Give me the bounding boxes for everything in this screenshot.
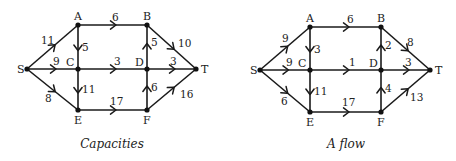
- edge-s-e: [27, 69, 78, 110]
- node-label: S: [250, 64, 258, 77]
- edge-label: 6: [151, 81, 158, 93]
- edge-label: 17: [342, 96, 355, 108]
- node-s: [24, 66, 29, 71]
- edge-label: 8: [45, 92, 52, 104]
- flow-graph: 9966311128341317SABCDTEFA flow: [250, 12, 443, 151]
- node-label: E: [74, 114, 82, 127]
- edge-label: 11: [41, 34, 54, 46]
- node-label: E: [306, 116, 314, 129]
- node-label: C: [66, 56, 74, 69]
- node-s: [257, 67, 262, 72]
- node-c: [307, 67, 312, 72]
- node-label: B: [143, 10, 151, 23]
- node-t: [193, 66, 198, 71]
- graph-caption: Capacities: [80, 137, 144, 151]
- edge-label: 3: [114, 55, 121, 67]
- edge-label: 6: [347, 13, 354, 25]
- node-a: [75, 22, 80, 27]
- node-t: [427, 67, 432, 72]
- edge-label: 11: [314, 85, 327, 97]
- capacities-graph: 119865311510361617SABCDTEFCapacities: [17, 10, 209, 151]
- edge-label: 6: [112, 11, 119, 23]
- node-label: C: [298, 57, 306, 70]
- edge-label: 9: [282, 32, 289, 44]
- node-d: [144, 66, 149, 71]
- node-c: [75, 66, 80, 71]
- edge-label: 4: [385, 82, 392, 94]
- node-b: [144, 22, 149, 27]
- node-a: [307, 24, 312, 29]
- node-label: D: [369, 57, 378, 70]
- edge-label: 6: [281, 95, 288, 107]
- edge-label: 10: [178, 37, 191, 49]
- edge-label: 13: [410, 91, 423, 103]
- node-label: B: [377, 12, 385, 25]
- edge-label: 3: [314, 43, 321, 55]
- node-label: A: [305, 12, 315, 25]
- node-label: T: [435, 64, 443, 77]
- edge-label: 3: [170, 55, 177, 67]
- node-label: A: [73, 10, 83, 23]
- node-label: F: [143, 114, 151, 127]
- edge-label: 5: [151, 36, 158, 48]
- network-flow-diagram: 119865311510361617SABCDTEFCapacities 996…: [0, 0, 456, 161]
- node-d: [378, 67, 383, 72]
- edge-label: 16: [180, 88, 194, 100]
- node-e: [307, 109, 312, 114]
- edge-label: 9: [286, 56, 293, 68]
- node-f: [378, 109, 383, 114]
- edge-label: 17: [110, 95, 123, 107]
- node-label: S: [17, 63, 25, 76]
- edge-label: 1: [349, 56, 356, 68]
- node-e: [75, 107, 80, 112]
- node-label: T: [201, 63, 209, 76]
- graph-caption: A flow: [326, 137, 366, 151]
- edge-label: 9: [53, 55, 60, 67]
- edge-label: 8: [407, 36, 414, 48]
- node-label: D: [135, 56, 144, 69]
- edge-label: 5: [82, 41, 89, 53]
- node-f: [144, 107, 149, 112]
- edge-label: 11: [82, 83, 95, 95]
- node-b: [378, 24, 383, 29]
- node-label: F: [377, 116, 385, 129]
- edge-label: 3: [405, 56, 412, 68]
- edge-label: 2: [385, 39, 392, 51]
